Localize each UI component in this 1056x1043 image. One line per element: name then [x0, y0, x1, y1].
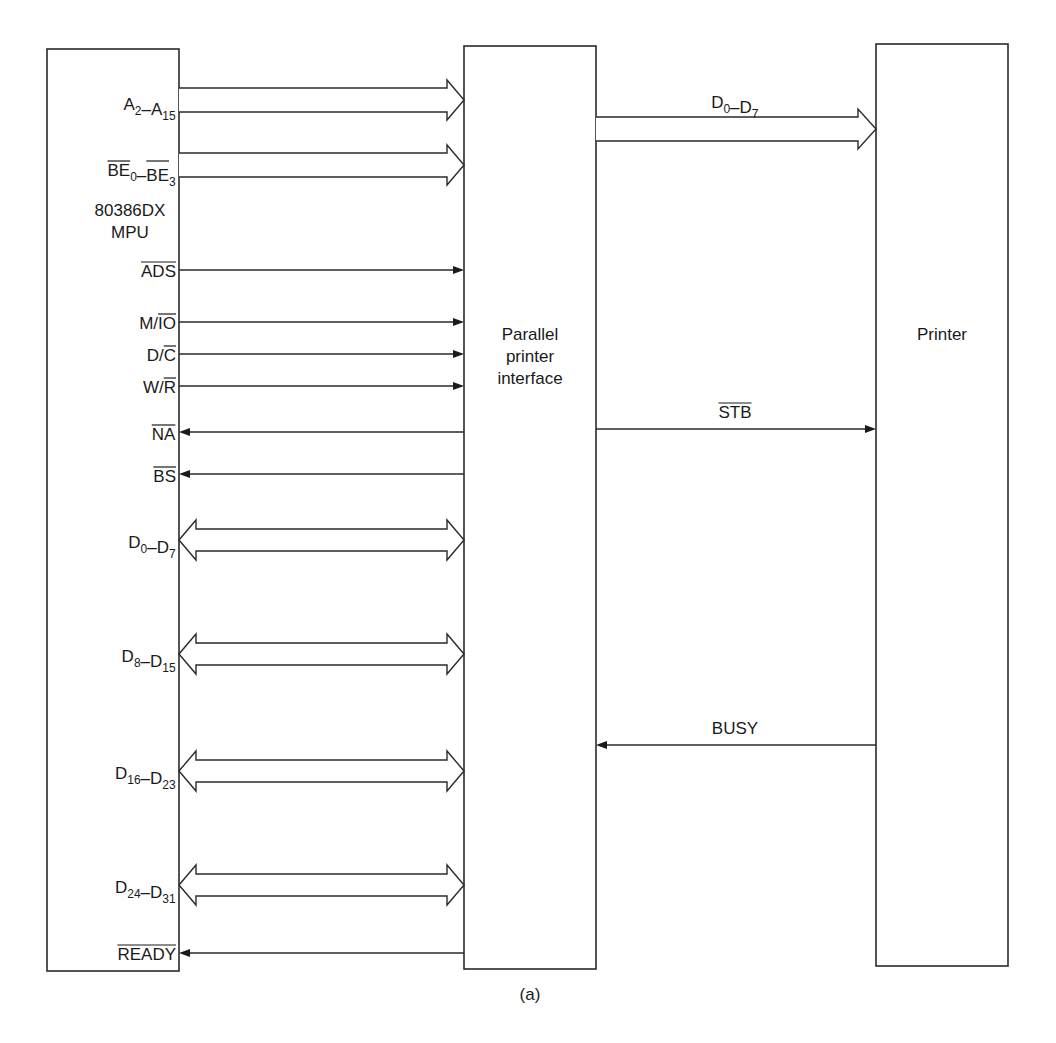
- address-bus-arrow: [179, 80, 464, 120]
- m-io-arrow: [179, 318, 464, 326]
- w-r-arrow: [179, 382, 464, 390]
- signal-label-text: BS: [153, 467, 176, 486]
- data-bus-0-7-arrow: [179, 520, 464, 560]
- busy-arrow: [596, 741, 876, 749]
- na-arrow: [179, 428, 464, 436]
- mpu-label-line1: 80386DX: [95, 201, 166, 220]
- d-c-arrow: [179, 350, 464, 358]
- printer-block: Printer: [876, 44, 1008, 966]
- ads-arrow: [179, 266, 464, 274]
- label-busy: BUSY: [712, 719, 758, 738]
- interface-label-line3: interface: [497, 369, 562, 388]
- byte-enable-bus-arrow: [179, 145, 464, 185]
- mpu-block: 80386DX MPU: [47, 49, 179, 971]
- signal-label-text: M/IO: [139, 314, 176, 333]
- parallel-printer-interface-block: Parallel printer interface: [464, 46, 596, 969]
- interface-label-line2: printer: [506, 347, 555, 366]
- strobe-arrow: [596, 425, 876, 433]
- printer-label: Printer: [917, 325, 967, 344]
- block-diagram: 80386DX MPU Parallel printer interface P…: [0, 0, 1056, 1043]
- mpu-label-line2: MPU: [111, 223, 149, 242]
- data-bus-8-15-arrow: [179, 634, 464, 674]
- label-w-r: W/R: [143, 378, 176, 397]
- signal-label-text: D/C: [147, 346, 176, 365]
- label-bs: BS: [153, 467, 176, 486]
- ready-arrow: [179, 949, 464, 957]
- signal-label-text: NA: [152, 425, 176, 444]
- signal-label-text: BUSY: [712, 719, 758, 738]
- figure-caption: (a): [520, 985, 541, 1004]
- label-d-c: D/C: [147, 346, 176, 365]
- data-bus-16-23-arrow: [179, 751, 464, 791]
- label-strobe: STB: [718, 403, 751, 422]
- bs-arrow: [179, 470, 464, 478]
- label-na: NA: [152, 425, 176, 444]
- printer-signal-labels: D0–D7 STB BUSY: [711, 93, 759, 738]
- data-bus-24-31-arrow: [179, 865, 464, 905]
- signal-label-text: W/R: [143, 378, 176, 397]
- label-ads: ADS: [141, 262, 176, 281]
- interface-label-line1: Parallel: [502, 325, 559, 344]
- label-ready: READY: [117, 945, 176, 964]
- signal-label-text: ADS: [141, 262, 176, 281]
- label-m-io: M/IO: [139, 314, 176, 333]
- signal-label-text: READY: [117, 945, 176, 964]
- signal-label-text: STB: [718, 403, 751, 422]
